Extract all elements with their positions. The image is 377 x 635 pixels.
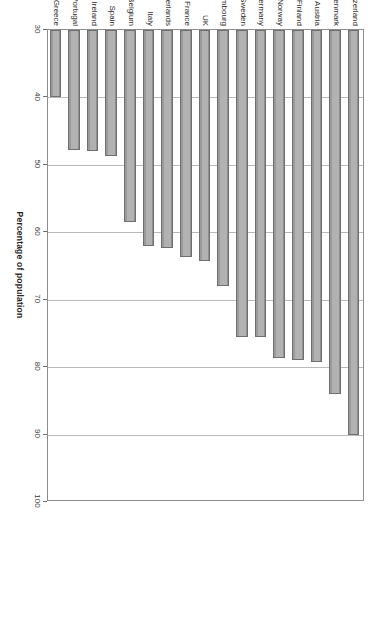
bar	[255, 30, 267, 337]
tick-mark-70	[43, 299, 47, 300]
tick-label-40: 40	[33, 92, 42, 101]
axis-title: Percentage of population	[15, 29, 25, 501]
bar	[329, 30, 341, 394]
category-label: Norway	[276, 0, 284, 26]
tick-mark-80	[43, 366, 47, 367]
bar-series	[48, 30, 363, 500]
tick-label-50: 50	[33, 159, 42, 168]
bar	[68, 30, 80, 150]
bar	[236, 30, 248, 337]
tick-mark-60	[43, 231, 47, 232]
category-label: Greece	[52, 0, 60, 26]
category-label: France	[183, 1, 191, 26]
tick-label-90: 90	[33, 429, 42, 438]
category-label: Denmark	[332, 0, 340, 26]
category-label: Ireland	[90, 2, 98, 26]
category-label: Italy	[146, 11, 154, 26]
tick-mark-30	[43, 29, 47, 30]
bar	[143, 30, 155, 246]
category-label: Netherlands	[164, 0, 172, 26]
category-label: Portugal	[71, 0, 79, 26]
bar	[124, 30, 136, 222]
tick-mark-50	[43, 164, 47, 165]
bar	[292, 30, 304, 360]
tick-mark-40	[43, 96, 47, 97]
tick-mark-90	[43, 434, 47, 435]
tick-label-60: 60	[33, 227, 42, 236]
plot-area	[47, 29, 364, 501]
category-label: Austria	[313, 1, 321, 26]
rotated-chart-container: SwitzerlandDenmarkAustriaFinlandNorwayGe…	[0, 0, 377, 635]
category-label: Belgium	[127, 0, 135, 26]
category-label: Germany	[257, 0, 265, 26]
bar	[348, 30, 360, 435]
chart-figure: SwitzerlandDenmarkAustriaFinlandNorwayGe…	[0, 0, 377, 635]
tick-mark-100	[43, 501, 47, 502]
tick-label-30: 30	[33, 25, 42, 34]
category-label: Finland	[295, 0, 303, 26]
bar	[161, 30, 173, 248]
bar	[87, 30, 99, 151]
bar	[273, 30, 285, 358]
category-label: Switzerland	[351, 0, 359, 26]
tick-label-100: 100	[33, 494, 42, 507]
bar	[180, 30, 192, 257]
category-label: Luxembourg	[220, 0, 228, 26]
category-label: UK	[202, 15, 210, 26]
category-label: Spain	[108, 6, 116, 26]
bar	[106, 30, 118, 156]
bar	[311, 30, 323, 362]
bar	[50, 30, 62, 97]
category-label: Sweden	[239, 0, 247, 26]
tick-label-70: 70	[33, 294, 42, 303]
bar	[217, 30, 229, 286]
category-axis: SwitzerlandDenmarkAustriaFinlandNorwayGe…	[47, 0, 364, 29]
bar	[199, 30, 211, 261]
tick-label-80: 80	[33, 362, 42, 371]
